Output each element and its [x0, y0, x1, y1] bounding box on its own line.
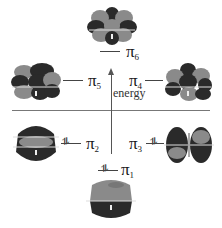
pi5-level — [63, 80, 83, 81]
pi2-label: π2 — [86, 135, 99, 154]
pi3-level — [146, 143, 164, 144]
pi4-orbital-icon — [163, 62, 213, 104]
pi3-orbital-icon — [164, 125, 214, 165]
pi1-orbital-icon — [86, 175, 136, 221]
energy-axis — [111, 72, 112, 154]
pi1-electron-pair: ⥮ — [101, 164, 108, 174]
pi4-label: π4 — [129, 72, 142, 91]
pi1-level — [98, 170, 118, 171]
pi2-level — [61, 143, 81, 144]
pi6-label: π6 — [126, 43, 139, 62]
pi5-label: π5 — [88, 72, 101, 91]
pi4-level — [145, 80, 163, 81]
pi2-orbital-icon — [12, 120, 60, 166]
pi2-electron-pair: ⥮ — [62, 137, 69, 147]
pi3-electron-pair: ⥮ — [150, 137, 157, 147]
pi5-orbital-icon — [10, 62, 62, 102]
pi3-label: π3 — [129, 135, 142, 154]
pi6-level — [100, 51, 120, 52]
energy-arrow-head — [108, 68, 114, 75]
pi6-orbital-icon — [86, 6, 138, 46]
